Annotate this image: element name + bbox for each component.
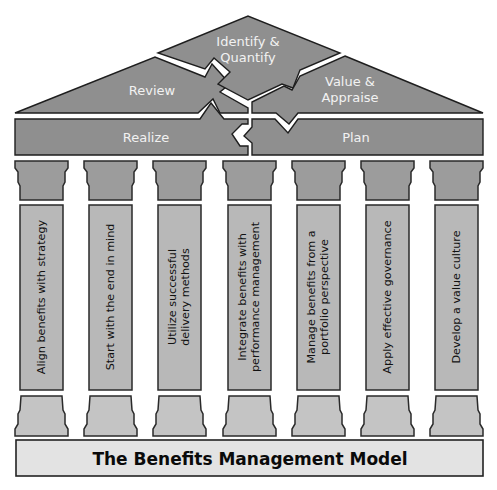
pillar-capital (84, 161, 137, 200)
label-identify-line2: Quantify (220, 50, 276, 65)
label-realize: Realize (123, 130, 169, 145)
pillar: Start with the end in mind (84, 161, 137, 436)
label-value-line1: Value & (325, 74, 375, 89)
pillar-label-line1: Develop a value culture (450, 230, 463, 363)
pillar-base (15, 396, 68, 436)
pillar-label-line2: performance management (249, 221, 262, 372)
pillar-capital (153, 161, 206, 200)
pillar-base (84, 396, 137, 436)
pillar-label-line2: delivery methods (179, 248, 192, 346)
pillars: Align benefits with strategyStart with t… (15, 161, 483, 436)
pillar: Apply effective governance (361, 161, 414, 436)
label-review: Review (129, 83, 176, 98)
benefits-model-diagram: Identify & Quantify Review Value & Appra… (0, 0, 497, 490)
pillar-base (153, 396, 206, 436)
pillar-label-line1: Integrate benefits with (236, 233, 249, 361)
label-identify-line1: Identify & (216, 34, 279, 49)
pillar-label-line1: Start with the end in mind (104, 224, 117, 371)
pillar-capital (15, 161, 68, 200)
pillar-label-line2: portfolio perspective (318, 239, 331, 355)
pillar-capital (223, 161, 276, 200)
pillar-capital (292, 161, 345, 200)
pillar: Utilize successfuldelivery methods (153, 161, 206, 436)
label-value-line2: Appraise (321, 90, 378, 105)
pillar: Develop a value culture (430, 161, 483, 436)
pillar-label-line1: Align benefits with strategy (35, 219, 48, 374)
pillar-base (430, 396, 483, 436)
pillar-capital (430, 161, 483, 200)
pillar-capital (361, 161, 414, 200)
pillar-label-line1: Utilize successful (166, 249, 179, 345)
pillar-base (292, 396, 345, 436)
pillar: Integrate benefits withperformance manag… (223, 161, 276, 436)
pillar: Align benefits with strategy (15, 161, 68, 436)
pillar-label-line1: Apply effective governance (381, 220, 394, 373)
pillar: Manage benefits from aportfolio perspect… (292, 161, 345, 436)
model-title: The Benefits Management Model (92, 449, 407, 469)
pillar-label-line1: Manage benefits from a (305, 230, 318, 363)
label-plan: Plan (342, 130, 370, 145)
pillar-base (361, 396, 414, 436)
pillar-base (223, 396, 276, 436)
